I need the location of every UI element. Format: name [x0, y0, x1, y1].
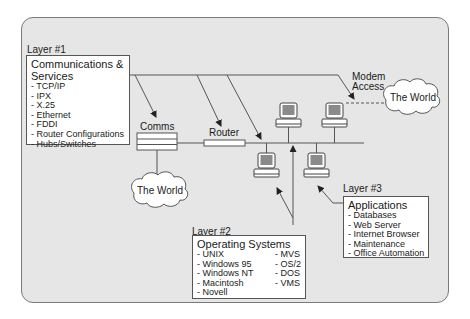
- layer2-column-1: UNIX Windows 95 Windows NT Macintosh Nov…: [197, 250, 263, 298]
- layer2-box: Operating Systems UNIX Windows 95 Window…: [192, 235, 306, 299]
- layer2-columns: UNIX Windows 95 Windows NT Macintosh Nov…: [197, 250, 301, 298]
- layer3-box: Applications Databases Web Server Intern…: [343, 196, 429, 258]
- router-icon: [204, 140, 245, 146]
- cloud-left-label: The World: [137, 185, 183, 196]
- layer1-heading: Layer #1: [27, 44, 66, 55]
- comms-label: Comms: [140, 121, 174, 132]
- layer2-item: Novell: [197, 288, 263, 298]
- computer-icon: [276, 103, 301, 143]
- layer3-item: Office Automation: [348, 249, 424, 259]
- layer3-connector: [318, 186, 344, 203]
- computer-icon: [304, 143, 329, 177]
- modem-label-line2: Access: [352, 81, 384, 92]
- cloud-right-label: The World: [390, 92, 436, 103]
- layer3-heading: Layer #3: [343, 183, 382, 194]
- layer2-column-2: MVS OS/2 DOS VMS: [275, 250, 301, 298]
- router-label: Router: [209, 127, 239, 138]
- network-layers-diagram: Layer #1 Communications & Services TCP/I…: [0, 0, 470, 319]
- layer1-box: Communications & Services TCP/IP IPX X.2…: [26, 55, 130, 145]
- comms-device-icon: [137, 133, 177, 150]
- layer1-title-line1: Communications &: [31, 58, 125, 70]
- layer1-item: Hubs/Switches: [31, 140, 125, 150]
- computer-icon: [322, 103, 347, 143]
- layer2-connector: [277, 146, 293, 225]
- layer2-item: VMS: [275, 279, 301, 289]
- computer-icon: [254, 143, 279, 177]
